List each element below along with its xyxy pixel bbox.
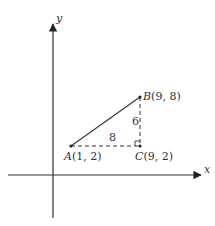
point-c (138, 144, 141, 147)
point-a (69, 144, 72, 147)
point-c-label: C(9, 2) (135, 150, 173, 163)
segment-ab (71, 97, 140, 146)
point-b-label: B(9, 8) (142, 90, 181, 103)
x-axis-label: x (204, 163, 211, 176)
point-a-label: A(1, 2) (63, 150, 102, 163)
length-ac-label: 8 (109, 131, 116, 144)
y-axis-label: y (55, 12, 63, 25)
point-b (138, 95, 141, 98)
length-bc-label: 6 (132, 115, 139, 128)
diagram-canvas: x y A(1, 2) B(9, 8) C(9, 2) 8 6 (0, 0, 215, 226)
coordinate-diagram: x y A(1, 2) B(9, 8) C(9, 2) 8 6 (0, 0, 215, 226)
